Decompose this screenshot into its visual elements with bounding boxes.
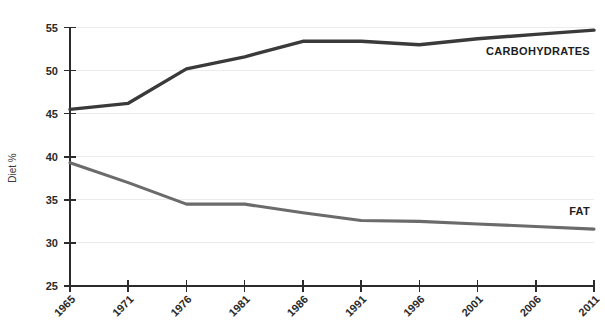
series-line-carbohydrates [70,30,594,109]
y-tick-label: 45 [46,108,58,120]
series-line-fat [70,163,594,229]
y-tick-label: 55 [46,22,58,34]
x-tick-label: 1996 [401,293,427,319]
x-tick-label: 1965 [52,293,78,319]
series-label-carbohydrates: CARBOHYDRATES [486,45,590,57]
x-tick-label: 2011 [576,293,601,318]
y-axis-ticks-group: 25303540455055 [46,22,76,293]
y-tick-label: 30 [46,237,58,249]
y-tick-label: 35 [46,194,58,206]
gridlines-group [70,28,594,287]
x-tick-label: 1991 [343,293,369,319]
x-tick-label: 1971 [110,293,136,319]
y-tick-label: 25 [46,280,58,292]
x-tick-label: 1981 [226,293,252,319]
x-tick-label: 2006 [517,293,543,319]
line-chart: 25303540455055 1965197119761981198619911… [0,0,605,336]
x-tick-label: 2001 [459,293,485,319]
y-tick-label: 40 [46,151,58,163]
x-tick-label: 1986 [285,293,311,319]
x-tick-label: 1976 [168,293,194,319]
y-axis-title: Diet % [7,153,18,183]
series-label-fat: FAT [569,205,590,217]
chart-container: 25303540455055 1965197119761981198619911… [0,0,605,336]
y-tick-label: 50 [46,65,58,77]
